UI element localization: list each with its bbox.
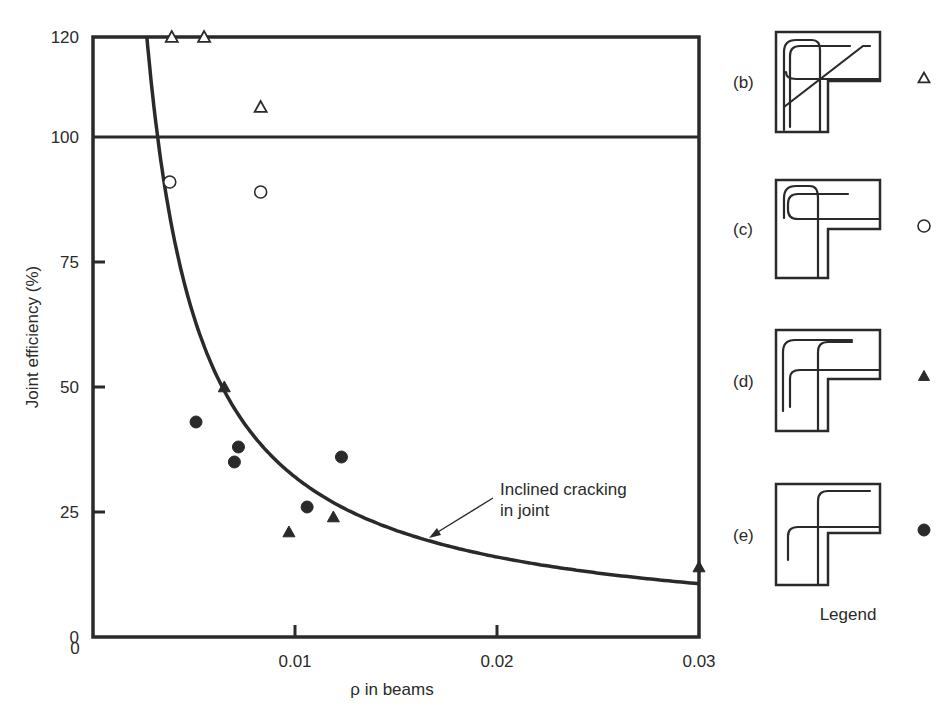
x-tick-label: 0.01: [278, 652, 311, 671]
legend-entry-e: (e): [733, 484, 930, 585]
annotation-label-line: in joint: [500, 501, 549, 520]
filled-triangle-icon: [919, 371, 930, 381]
y-axis-title: Joint efficiency (%): [23, 266, 42, 408]
joint-outline: [776, 484, 880, 585]
legend-label: (b): [733, 73, 754, 92]
curve-path: [147, 37, 699, 584]
filled-circle-icon: [301, 501, 313, 513]
curve-annotation: Inclined crackingin joint: [429, 480, 627, 538]
filled-circle-icon: [228, 456, 240, 468]
y-tick-label: 50: [60, 378, 79, 397]
reinforcement-bar: [818, 342, 852, 430]
filled-circle-icon: [190, 416, 202, 428]
filled-triangle-icon: [283, 526, 295, 537]
filled-circle-icon: [335, 451, 347, 463]
filled-triangle-icon: [693, 561, 705, 572]
x-tick-label: 0.03: [682, 652, 715, 671]
annotation-label-line: Inclined cracking: [500, 480, 627, 499]
open-triangle-icon: [919, 73, 930, 83]
open-triangle-icon: [255, 101, 267, 112]
filled-triangle-icon: [327, 511, 339, 522]
y-tick-label: 75: [60, 253, 79, 272]
filled-circle-icon: [232, 441, 244, 453]
legend-label: (e): [733, 526, 754, 545]
open-circle-icon: [164, 176, 176, 188]
y-tick-label: 25: [60, 503, 79, 522]
filled-circle-icon: [918, 524, 930, 536]
y-tick-label: 100: [51, 128, 79, 147]
x-tick-label: 0: [70, 639, 79, 658]
x-tick-label: 0.02: [480, 652, 513, 671]
open-circle-icon: [255, 186, 267, 198]
annotation-arrow: [433, 498, 493, 535]
y-tick-label: 120: [51, 28, 79, 47]
legend-entry-b: (b): [733, 32, 930, 132]
open-circle-icon: [918, 220, 930, 232]
joint-efficiency-chart: 025507510012000.010.020.03ρ in beamsJoin…: [0, 0, 950, 715]
legend-title: Legend: [820, 605, 877, 624]
x-axis-title: ρ in beams: [350, 680, 433, 699]
plot-axes: 025507510012000.010.020.03ρ in beamsJoin…: [23, 28, 716, 699]
reinforcement-bar: [790, 370, 880, 407]
legend-entry-d: (d): [733, 330, 930, 431]
arrow-head-icon: [429, 528, 441, 538]
legend-entry-c: (c): [733, 180, 930, 278]
joint-outline: [776, 330, 880, 431]
reinforcement-bar: [818, 491, 870, 584]
legend: (b)(c)(d)(e)Legend: [733, 32, 930, 624]
reinforcement-bar: [786, 72, 880, 79]
reinforcement-bar: [788, 204, 880, 219]
cracking-curve: [147, 37, 699, 584]
plot-frame: [93, 37, 699, 637]
legend-label: (d): [733, 372, 754, 391]
legend-label: (c): [733, 220, 753, 239]
